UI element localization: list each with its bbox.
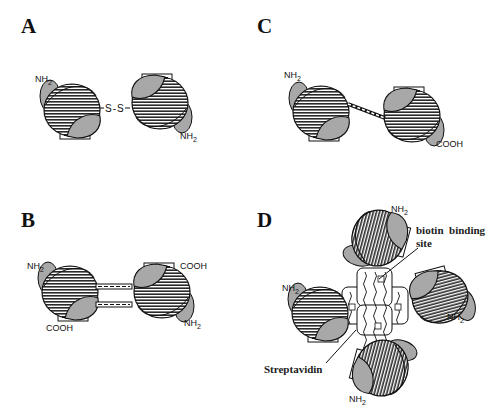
terminus-label: NH2 — [282, 283, 299, 295]
biotin-binding-site-label-2: site — [416, 237, 432, 249]
terminus-label: NH2 — [391, 204, 408, 216]
panel-c-diagram — [289, 82, 444, 146]
terminus-label: COOH — [180, 261, 207, 271]
diagram-canvas — [0, 0, 499, 415]
peptide-linker — [96, 302, 132, 307]
terminus-label: NH2 — [35, 74, 52, 86]
terminus-label: NH2 — [284, 70, 301, 82]
terminus-label: NH2 — [180, 131, 197, 143]
protein-domain — [347, 330, 420, 404]
terminus-label: COOH — [46, 323, 73, 333]
protein-domain — [405, 261, 479, 334]
disulfide-label: S-S — [105, 103, 125, 114]
protein-domain — [384, 87, 444, 146]
protein-domain — [38, 262, 98, 321]
streptavidin-label: Streptavidin — [264, 363, 322, 375]
terminus-label: NH2 — [184, 318, 201, 330]
terminus-label: NH2 — [349, 394, 366, 406]
panel-label-a: A — [21, 14, 36, 39]
panel-label-d: D — [257, 208, 272, 233]
protein-domain — [132, 74, 192, 133]
peptide-linker — [96, 284, 132, 289]
panel-label-b: B — [21, 208, 35, 233]
panel-b-diagram — [38, 262, 194, 322]
terminus-label: COOH — [436, 139, 463, 149]
protein-domain — [134, 263, 194, 322]
biotin-binding-site-label: biotin binding — [416, 224, 485, 236]
panel-label-c: C — [257, 14, 272, 39]
protein-domain — [40, 80, 100, 139]
protein-domain — [289, 82, 349, 141]
terminus-label: NH2 — [447, 312, 464, 324]
terminus-label: NH2 — [27, 261, 44, 273]
